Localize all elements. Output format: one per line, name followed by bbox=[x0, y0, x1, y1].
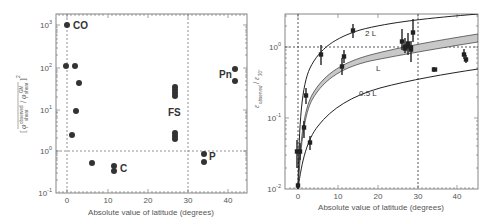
right-chart: 100 10-1 10-2 0 10 20 30 40 Absolute val… bbox=[252, 14, 478, 212]
curve-label-2l: 2 L bbox=[365, 29, 377, 38]
point bbox=[69, 132, 75, 138]
right-ytick-1e-1: 10-1 bbox=[267, 112, 281, 123]
errorbar-point bbox=[341, 58, 344, 75]
svg-text:2: 2 bbox=[15, 75, 21, 78]
svg-text:observed: observed bbox=[258, 85, 263, 104]
point-pn bbox=[232, 78, 238, 84]
left-x-axis-label: Absolute value of latitude (degrees) bbox=[88, 208, 214, 217]
curve-l-band bbox=[298, 34, 478, 189]
right-xtick-30: 30 bbox=[414, 192, 423, 201]
left-y-ticks bbox=[56, 25, 247, 180]
label-pn: Pn bbox=[219, 69, 232, 80]
right-xtick-0: 0 bbox=[296, 192, 301, 201]
left-plot-frame bbox=[56, 14, 247, 193]
label-fs: FS bbox=[168, 107, 181, 118]
left-xtick-10: 10 bbox=[104, 196, 113, 205]
errorbar-point bbox=[433, 67, 437, 72]
curve-label-0-5l: 0.5 L bbox=[359, 89, 377, 98]
svg-text:[: [ bbox=[18, 130, 28, 133]
label-c: C bbox=[120, 163, 127, 174]
left-ytick-1e1: 101 bbox=[40, 104, 52, 115]
svg-text:/: / bbox=[252, 81, 261, 84]
left-xtick-20: 20 bbox=[144, 196, 153, 205]
svg-text:shear: shear bbox=[24, 109, 29, 121]
point-co bbox=[64, 22, 70, 28]
point-c bbox=[111, 168, 117, 174]
left-ytick-1e3: 103 bbox=[40, 19, 52, 30]
figure-canvas: 103 102 101 100 10-1 0 10 20 30 40 Absol… bbox=[0, 0, 493, 224]
right-xtick-40: 40 bbox=[453, 192, 462, 201]
left-chart: 103 102 101 100 10-1 0 10 20 30 40 Absol… bbox=[15, 14, 247, 217]
right-y-axis-label: ε observed / ε 30° bbox=[252, 69, 263, 108]
label-co: CO bbox=[73, 20, 88, 31]
errorbar-point bbox=[320, 45, 323, 65]
right-ytick-1e0: 100 bbox=[269, 41, 281, 52]
left-ytick-1e0: 100 bbox=[40, 145, 52, 156]
right-xtick-10: 10 bbox=[334, 192, 343, 201]
left-ytick-1e2: 102 bbox=[40, 62, 52, 73]
left-y-axis-label: [ φ observed shear / φ GM shear ] 2 bbox=[15, 75, 29, 133]
errorbar-point bbox=[412, 19, 415, 42]
label-p: P bbox=[209, 151, 216, 162]
left-x-minor-ticks bbox=[59, 14, 244, 193]
errorbar-point bbox=[343, 50, 346, 63]
svg-text:30°: 30° bbox=[258, 69, 263, 76]
point bbox=[73, 108, 79, 114]
right-x-axis-label: Absolute value of latitude (degrees) bbox=[318, 203, 444, 212]
point-fs bbox=[172, 93, 178, 99]
point bbox=[89, 160, 95, 166]
right-curves bbox=[298, 14, 478, 189]
left-xtick-30: 30 bbox=[184, 196, 193, 205]
errorbar-point bbox=[297, 183, 300, 189]
right-ytick-1e-2: 10-2 bbox=[267, 183, 281, 194]
point bbox=[76, 80, 82, 86]
point-p bbox=[201, 159, 207, 165]
point bbox=[63, 63, 69, 69]
right-xtick-20: 20 bbox=[374, 192, 383, 201]
errorbar-point bbox=[305, 88, 308, 104]
left-ytick-1e-1: 10-1 bbox=[38, 187, 52, 198]
curve-0-5l bbox=[298, 69, 478, 189]
left-xtick-40: 40 bbox=[224, 196, 233, 205]
curve-label-l: L bbox=[376, 64, 381, 73]
svg-text:/: / bbox=[19, 100, 28, 103]
point-pn bbox=[232, 66, 238, 72]
point bbox=[72, 63, 78, 69]
point-p bbox=[201, 151, 207, 157]
left-xtick-0: 0 bbox=[65, 196, 70, 205]
errorbar-point bbox=[352, 24, 355, 38]
svg-text:shear: shear bbox=[24, 82, 29, 94]
point-fs bbox=[172, 136, 178, 142]
